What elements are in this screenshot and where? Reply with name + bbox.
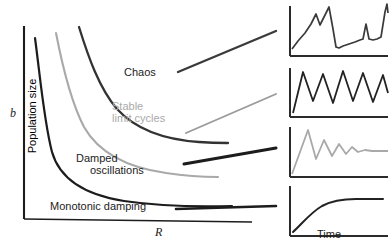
boundary-chaos [79, 27, 228, 143]
leader-line-damped [184, 148, 276, 164]
inset-y-axis-label: Population size [26, 61, 38, 171]
region-label-damped-line1: Damped [76, 152, 118, 164]
region-label-monotonic-damping: Monotonic damping [50, 200, 146, 212]
main-x-axis-label: R [155, 226, 162, 239]
inset-chart-limit-cycles [290, 68, 388, 117]
region-label-chaos: Chaos [124, 66, 156, 78]
leader-lines [176, 31, 276, 209]
region-label-damped-line2: oscillations [76, 164, 144, 176]
region-label-limit-cycles-line2: limit cycles [112, 112, 165, 124]
inset-chart-damped [290, 127, 388, 177]
inset-x-axis-label: Time [317, 228, 341, 240]
region-label-stable-limit-cycles: Stablelimit cycles [112, 100, 165, 125]
region-label-damped-oscillations: Dampedoscillations [76, 152, 144, 177]
leader-line-limit-cycles [186, 94, 276, 133]
main-y-axis-label: b [10, 107, 16, 120]
region-label-limit-cycles-line1: Stable [112, 100, 143, 112]
inset-chart-chaos [290, 4, 388, 56]
population-dynamics-figure: Chaos Stablelimit cycles Dampedoscillati… [0, 0, 390, 244]
leader-line-chaos [178, 31, 276, 72]
